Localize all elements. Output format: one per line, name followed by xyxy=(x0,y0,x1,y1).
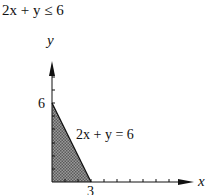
x-axis-label: x xyxy=(197,173,205,189)
inequality-graph: y x 6 3 2x + y = 6 xyxy=(0,0,209,195)
y-axis-arrow-icon xyxy=(49,61,55,76)
x-tick-label-3: 3 xyxy=(87,184,94,195)
y-axis-label: y xyxy=(45,32,54,48)
y-tick-label-6: 6 xyxy=(38,96,45,111)
x-axis-arrow-icon xyxy=(178,179,194,185)
line-equation-label: 2x + y = 6 xyxy=(76,127,134,142)
